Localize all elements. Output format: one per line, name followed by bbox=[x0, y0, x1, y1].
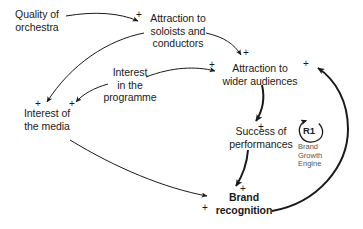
node-attraction-to-wider-audiences: Attraction to wider audiences bbox=[218, 62, 302, 87]
polarity-brand-to-audiences: + bbox=[303, 59, 309, 69]
arrow-success-to-brand bbox=[236, 150, 248, 186]
polarity-programme-to-audiences: + bbox=[209, 60, 215, 70]
polarity-success-to-brand: + bbox=[240, 184, 246, 194]
polarity-media-to-brand: + bbox=[202, 203, 208, 213]
arrow-media-to-brand bbox=[70, 140, 207, 196]
node-brand-recognition: Brand recognition bbox=[212, 191, 276, 216]
polarity-audiences-to-success: + bbox=[258, 122, 264, 132]
polarity-soloists-to-audiences: + bbox=[243, 48, 249, 58]
polarity-quality-to-soloists: + bbox=[136, 10, 142, 20]
polarity-soloists-to-media: + bbox=[35, 99, 41, 109]
arrow-audiences-to-success bbox=[256, 85, 263, 121]
node-quality-of-orchestra: Quality of orchestra bbox=[6, 8, 68, 33]
loop-caption-brand-growth-engine: Brand Growth Engine bbox=[298, 143, 338, 169]
loop-identifier-r1: R1 bbox=[303, 126, 315, 136]
polarity-programme-to-media: + bbox=[69, 99, 75, 109]
causal-loop-diagram: Quality of orchestra Attraction to soloi… bbox=[0, 0, 363, 229]
arrow-quality-to-soloists bbox=[66, 13, 138, 21]
node-interest-in-the-programme: Interest in the programme bbox=[99, 66, 161, 104]
node-attraction-to-soloists-and-conductors: Attraction to soloists and conductors bbox=[142, 12, 214, 50]
node-interest-of-the-media: Interest of the media bbox=[16, 107, 78, 132]
